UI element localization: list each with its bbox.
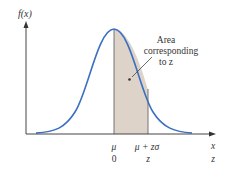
tick-z-top: μ + zσ bbox=[134, 142, 160, 152]
annotation-line-1: Area bbox=[157, 35, 176, 45]
normal-distribution-diagram: f(x) Area corresponding to z μ 0 μ + zσ … bbox=[0, 0, 230, 173]
tick-mean-bottom: 0 bbox=[112, 154, 117, 164]
annotation-line-3: to z bbox=[159, 57, 173, 67]
tick-mean-top: μ bbox=[111, 142, 117, 152]
x-axis-arrow-icon bbox=[209, 132, 216, 137]
y-axis-label: f(x) bbox=[18, 8, 33, 20]
tick-z-bottom: z bbox=[145, 154, 150, 164]
tick-axis-end-top: x bbox=[210, 141, 216, 151]
annotation-line-2: corresponding bbox=[144, 46, 199, 56]
tick-axis-end-bottom: z bbox=[210, 154, 215, 164]
shaded-area bbox=[114, 29, 148, 134]
annotation-arrow-dot bbox=[128, 78, 131, 81]
y-axis-arrow-icon bbox=[24, 21, 29, 28]
